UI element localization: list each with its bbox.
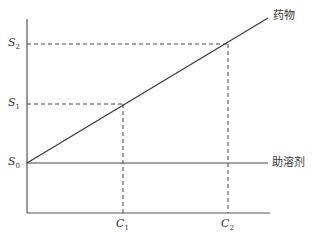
c2-label: C2 — [221, 218, 234, 232]
s0-label: S0 — [8, 156, 20, 170]
solubilizer-label: 助溶剂 — [272, 157, 305, 168]
drug-label: 药物 — [273, 10, 295, 21]
s2-label: S2 — [8, 37, 20, 51]
s1-label: S1 — [8, 97, 20, 111]
drug-line — [27, 18, 268, 163]
diagram-canvas — [0, 0, 312, 239]
c1-label: C1 — [116, 218, 129, 232]
